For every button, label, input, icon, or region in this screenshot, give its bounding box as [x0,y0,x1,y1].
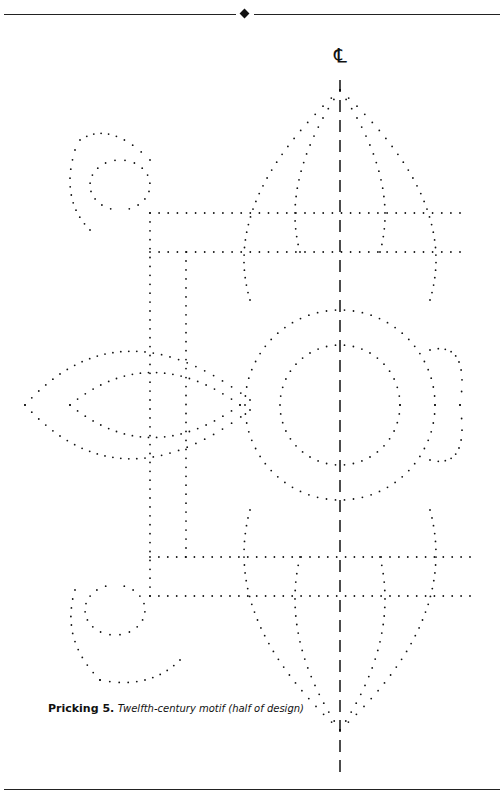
caption-text: Twelfth-century motif (half of design) [118,703,304,714]
figure-caption: Pricking 5. Twelfth-century motif (half … [48,702,304,715]
caption-label: Pricking 5. [48,702,114,715]
pricking-pattern [0,0,500,797]
bottom-rule [4,789,500,790]
